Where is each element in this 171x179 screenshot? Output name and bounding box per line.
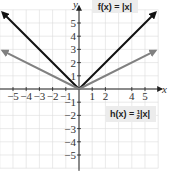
- x-tick-label: −5: [7, 90, 19, 102]
- x-tick-label: −2: [47, 90, 59, 102]
- x-tick-label: 1: [89, 90, 95, 102]
- absolute-value-graph: −5−4−3−2−1124554321−1−2−3−4−5 f(x) = |x|…: [0, 0, 171, 179]
- series-line: [2, 51, 79, 89]
- series-line: [2, 12, 79, 89]
- y-tick-label: 3: [71, 43, 77, 55]
- y-tick-label: −5: [64, 149, 76, 161]
- series-line: [79, 51, 156, 89]
- y-tick-label: 2: [71, 57, 77, 69]
- x-tick-label: 5: [142, 90, 148, 102]
- series-line: [79, 12, 156, 89]
- y-tick-label: −4: [64, 136, 76, 148]
- y-tick-label: −3: [64, 123, 76, 135]
- y-tick-label: −2: [64, 109, 76, 121]
- f-label: f(x) = |x|: [98, 2, 132, 12]
- y-axis-label: y: [72, 0, 78, 10]
- x-axis-label: x: [161, 83, 167, 95]
- y-tick-label: −1: [64, 96, 76, 108]
- x-tick-label: −4: [20, 90, 32, 102]
- h-label-box: h(x) = 12|x|: [106, 106, 156, 122]
- h-label: h(x) = 12|x|: [110, 109, 150, 120]
- f-label-box: f(x) = |x|: [92, 0, 138, 13]
- x-tick-label: −3: [34, 90, 46, 102]
- y-tick-label: 4: [71, 30, 77, 42]
- x-tick-label: 4: [129, 90, 135, 102]
- y-tick-label: 5: [71, 17, 77, 29]
- x-tick-label: 2: [103, 90, 109, 102]
